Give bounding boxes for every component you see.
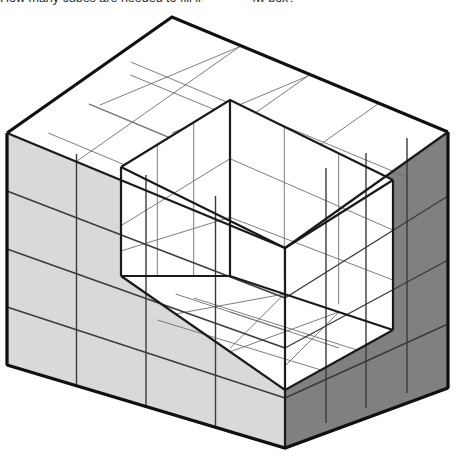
hollow-cube-box-figure <box>0 0 459 460</box>
